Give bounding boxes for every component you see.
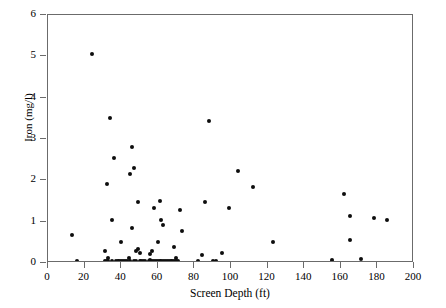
data-points-layer: [48, 15, 412, 261]
x-tick-label: 120: [247, 271, 287, 282]
x-tick-mark: [84, 262, 85, 268]
x-tick-mark: [340, 262, 341, 268]
data-point: [348, 214, 352, 218]
x-tick-mark: [376, 262, 377, 268]
data-point: [158, 199, 162, 203]
data-point: [372, 216, 376, 220]
x-tick-label: 40: [100, 271, 140, 282]
x-tick-mark: [230, 262, 231, 268]
data-point: [200, 253, 204, 257]
x-tick-label: 160: [320, 271, 360, 282]
data-point: [220, 251, 224, 255]
x-tick-label: 80: [173, 271, 213, 282]
x-tick-mark: [47, 262, 48, 268]
data-point: [150, 249, 154, 253]
data-point: [138, 251, 142, 255]
data-point: [119, 240, 123, 244]
data-point: [130, 226, 134, 230]
data-point: [130, 145, 134, 149]
x-tick-mark: [303, 262, 304, 268]
data-point: [70, 233, 74, 237]
x-tick-mark: [413, 262, 414, 268]
data-point: [105, 182, 109, 186]
y-tick-mark: [40, 55, 46, 56]
x-axis-label: Screen Depth (ft): [47, 287, 413, 299]
y-tick-mark: [40, 97, 46, 98]
x-tick-label: 180: [356, 271, 396, 282]
data-point: [128, 172, 132, 176]
x-tick-mark: [157, 262, 158, 268]
x-tick-label: 200: [393, 271, 433, 282]
data-point: [271, 240, 275, 244]
x-tick-mark: [120, 262, 121, 268]
data-point: [180, 229, 184, 233]
data-point: [90, 52, 94, 56]
x-tick-mark: [267, 262, 268, 268]
data-point: [103, 249, 107, 253]
data-point: [342, 192, 346, 196]
data-point: [207, 119, 211, 123]
data-point: [156, 240, 160, 244]
data-point: [236, 169, 240, 173]
x-tick-label: 140: [283, 271, 323, 282]
data-point: [132, 166, 136, 170]
data-point: [172, 245, 176, 249]
data-point: [112, 156, 116, 160]
data-point: [348, 238, 352, 242]
data-point: [214, 259, 218, 261]
x-tick-label: 60: [137, 271, 177, 282]
data-point: [75, 259, 79, 261]
data-point: [359, 257, 363, 261]
data-point: [176, 259, 180, 261]
y-tick-mark: [40, 221, 46, 222]
data-point: [227, 206, 231, 210]
data-point: [178, 208, 182, 212]
y-axis-label: Iron (mg/l): [23, 58, 34, 178]
y-tick-mark: [40, 138, 46, 139]
data-point: [108, 116, 112, 120]
data-point: [110, 218, 114, 222]
y-tick-label: 0: [0, 256, 36, 267]
data-point: [330, 258, 334, 261]
x-tick-label: 100: [210, 271, 250, 282]
data-point: [161, 223, 165, 227]
y-tick-label: 1: [0, 215, 36, 226]
plot-area: [47, 14, 413, 262]
y-tick-mark: [40, 262, 46, 263]
data-point: [152, 206, 156, 210]
scatter-plot-figure: 0123456 020406080100120140160180200 Iron…: [0, 0, 446, 308]
x-tick-label: 0: [27, 271, 67, 282]
data-point: [159, 218, 163, 222]
data-point: [136, 200, 140, 204]
y-tick-mark: [40, 14, 46, 15]
data-point: [196, 259, 200, 261]
data-point: [251, 185, 255, 189]
x-tick-mark: [193, 262, 194, 268]
y-tick-mark: [40, 179, 46, 180]
data-point: [385, 218, 389, 222]
data-point: [203, 200, 207, 204]
x-tick-label: 20: [64, 271, 104, 282]
y-tick-label: 6: [0, 8, 36, 19]
